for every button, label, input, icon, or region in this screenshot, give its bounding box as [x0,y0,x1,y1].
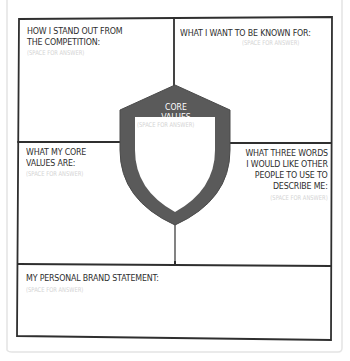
core-values-title: CORE VALUES [149,102,202,122]
three-words-hint: (SPACE FOR ANSWER) [271,194,328,202]
brand-statement-title: MY PERSONAL BRAND STATEMENT: [26,272,159,283]
three-words-title-line3: PEOPLE TO USE TO [255,169,328,180]
known-for-title: WHAT I WANT TO BE KNOWN FOR: [180,27,311,38]
worksheet: CORE VALUES (SPACE FOR ANSWER) HOW I STA… [0,0,350,361]
stand-out-title-line2: THE COMPETITION: [27,36,100,47]
stand-out-title-line1: HOW I STAND OUT FROM [27,25,122,36]
three-words-title-line4: DESCRIBE ME: [273,180,328,191]
brand-statement-hint: (SPACE FOR ANSWER) [26,286,83,294]
known-for-hint: (SPACE FOR ANSWER) [242,39,299,47]
three-words-title-line2: I WOULD LIKE OTHER [247,158,328,169]
my-core-values-title-line2: VALUES ARE: [26,157,75,168]
core-values-hint: (SPACE FOR ANSWER) [137,121,194,129]
stand-out-hint: (SPACE FOR ANSWER) [27,49,84,57]
three-words-title-line1: WHAT THREE WORDS [245,147,328,158]
my-core-values-title-line1: WHAT MY CORE [26,146,86,157]
my-core-values-hint: (SPACE FOR ANSWER) [26,170,83,178]
